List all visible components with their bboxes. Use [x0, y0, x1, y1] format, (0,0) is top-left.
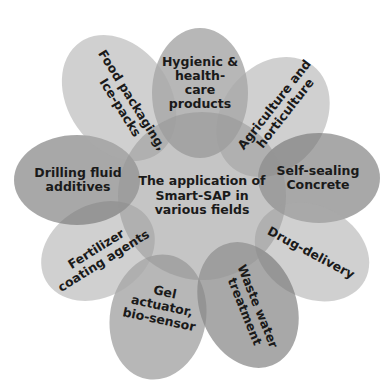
- label-hygienic: Hygienic & health- care products: [150, 55, 250, 111]
- label-self-sealing: Self-sealing Concrete: [268, 164, 368, 192]
- center-label: The application of Smart-SAP in various …: [138, 174, 266, 218]
- smart-sap-petal-diagram: Hygienic & health- care products Agricul…: [0, 0, 389, 384]
- label-drilling-fluid: Drilling fluid additives: [28, 166, 128, 194]
